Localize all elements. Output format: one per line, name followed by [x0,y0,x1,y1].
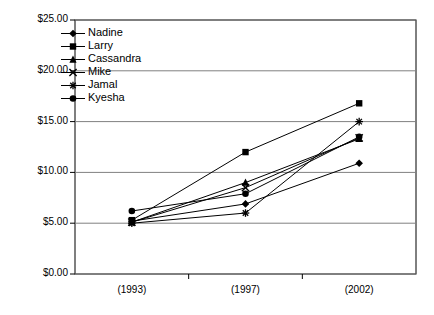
chart-legend: NadineLarryCassandraMikeJamalKyesha [60,26,141,104]
legend-label: Kyesha [86,91,125,104]
line-chart: NadineLarryCassandraMikeJamalKyesha $0.0… [0,0,434,315]
legend-marker-diamond-icon [60,26,86,39]
legend-item-larry[interactable]: Larry [60,39,141,52]
legend-label: Larry [86,39,113,52]
y-axis-tick-label: $10.00 [16,165,68,176]
y-axis-tick-label: $0.00 [16,267,68,278]
y-axis-tick-label: $5.00 [16,216,68,227]
legend-label: Nadine [86,26,123,39]
legend-marker-circle-icon [60,91,86,104]
y-axis-tick-label: $20.00 [16,64,68,75]
legend-marker-star-icon [60,78,86,91]
legend-item-nadine[interactable]: Nadine [60,26,141,39]
marker-square-larry [70,43,76,49]
legend-item-jamal[interactable]: Jamal [60,78,141,91]
marker-circle-kyesha [356,134,363,141]
marker-circle-kyesha [70,95,77,102]
x-axis-tick-label: (1993) [75,284,189,295]
x-axis-tick-label: (2002) [302,284,416,295]
legend-item-cassandra[interactable]: Cassandra [60,52,141,65]
legend-label: Cassandra [86,52,141,65]
x-axis-tick-label: (1997) [189,284,303,295]
y-axis-tick-label: $25.00 [16,13,68,24]
y-axis-tick-label: $15.00 [16,115,68,126]
marker-square-larry [242,149,248,155]
legend-label: Mike [86,65,111,78]
marker-square-larry [356,100,362,106]
marker-circle-kyesha [242,190,249,197]
legend-marker-square-icon [60,39,86,52]
legend-item-kyesha[interactable]: Kyesha [60,91,141,104]
legend-item-mike[interactable]: Mike [60,65,141,78]
legend-label: Jamal [86,78,117,91]
marker-circle-kyesha [129,208,136,215]
marker-diamond-nadine [69,30,77,38]
